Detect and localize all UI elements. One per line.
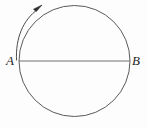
point-label-a: A — [6, 54, 14, 67]
point-label-b: B — [132, 54, 140, 67]
figure-canvas — [0, 0, 147, 128]
arrowhead-icon — [34, 5, 43, 12]
geometry-figure: A B — [0, 0, 147, 128]
